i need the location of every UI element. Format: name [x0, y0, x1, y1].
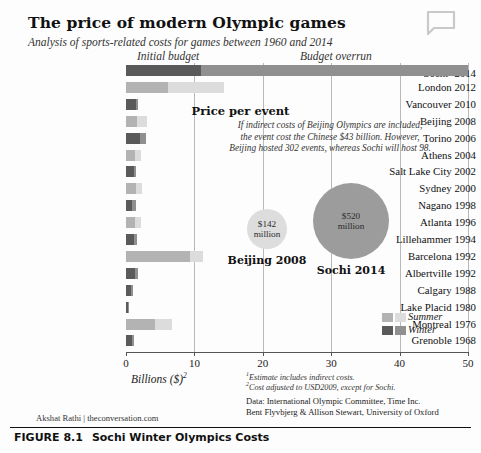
credit-line: Akshat Rathi | theconversation.com — [36, 413, 158, 423]
bar-budget-overrun — [190, 251, 203, 262]
row-label-calgary: Calgary 1988 — [355, 284, 481, 297]
row-label-salt-lake-city: Salt Lake City 2002 — [355, 165, 481, 178]
row-label-grenoble: Grenoble 1968 — [355, 334, 481, 347]
legend-label: Summer — [408, 311, 442, 322]
x-tick-10 — [194, 352, 195, 356]
bar-initial-budget — [126, 319, 155, 330]
bar-initial-budget — [126, 268, 135, 279]
figure-caption-text: Sochi Winter Olympics Costs — [92, 431, 269, 444]
price-circle-value: $520million — [338, 211, 365, 232]
bar-budget-overrun — [140, 133, 145, 144]
bar-budget-overrun — [132, 200, 135, 211]
row-label-london: London 2012 — [355, 81, 481, 94]
row-label-city: Calgary — [418, 284, 452, 296]
bar-initial-budget — [126, 133, 140, 144]
callout-body: If indirect costs of Beijing Olympics ar… — [185, 120, 475, 155]
caption-budget-overrun: Budget overrun — [300, 50, 372, 62]
chart-row: Nagano 1998 — [0, 199, 481, 215]
legend-swatch-initial — [382, 313, 393, 322]
x-tick-20 — [263, 352, 264, 356]
source-line: Bent Flyvbjerg & Allison Stewart, Univer… — [246, 407, 439, 417]
chart-row: Grenoble 1968 — [0, 334, 481, 350]
price-circle-beijing-2008: $142million — [247, 209, 287, 249]
legend-item-summer: Summer — [382, 313, 477, 322]
bar-budget-overrun — [135, 268, 138, 279]
row-label-year: 1968 — [452, 334, 476, 346]
legend-swatch-overrun — [395, 313, 406, 322]
row-label-year: 1992 — [452, 267, 476, 279]
bar-initial-budget — [126, 183, 136, 194]
bar-budget-overrun — [136, 183, 142, 194]
x-tick-30 — [331, 352, 332, 356]
x-tick-label-40: 40 — [394, 357, 405, 369]
page-title: The price of modern Olympic games — [28, 13, 346, 32]
bar-initial-budget — [126, 150, 135, 161]
bar-initial-budget — [126, 217, 135, 228]
figure-container: The price of modern Olympic games Analys… — [0, 0, 481, 453]
legend-label: Winter — [408, 324, 436, 335]
chart-row: Sydney 2000 — [0, 182, 481, 198]
row-label-year: 1996 — [452, 216, 476, 228]
row-label-year: 1998 — [452, 199, 476, 211]
row-label-year: 1992 — [452, 250, 476, 262]
legend-swatch-initial — [382, 326, 393, 335]
row-label-city: Lillehammer — [396, 233, 452, 245]
chart-row: Salt Lake City 2002 — [0, 165, 481, 181]
row-label-barcelona: Barcelona 1992 — [355, 250, 481, 263]
legend-swatch-overrun — [395, 326, 406, 335]
footnote-2: 2Cost adjusted to USD2009, except for So… — [246, 381, 395, 392]
bar-budget-overrun — [134, 166, 136, 177]
row-label-city: Sydney — [419, 182, 451, 194]
figure-divider — [10, 427, 471, 428]
bar-initial-budget — [126, 166, 134, 177]
caption-initial-budget: Initial budget — [137, 50, 199, 62]
bar-budget-overrun — [135, 150, 141, 161]
row-label-year: 2000 — [452, 182, 476, 194]
bar-budget-overrun — [155, 319, 171, 330]
row-label-city: Nagano — [418, 199, 452, 211]
page-subtitle: Analysis of sports-related costs for gam… — [28, 36, 333, 48]
x-tick-40 — [400, 352, 401, 356]
bar-initial-budget — [126, 234, 134, 245]
callout-body-line: Beijing hosted 302 events, whereas Sochi… — [185, 143, 475, 155]
price-circle-unit: million — [338, 221, 365, 232]
figure-number: FIGURE 8.1 — [14, 431, 83, 444]
x-tick-label-10: 10 — [189, 357, 200, 369]
x-tick-label-0: 0 — [123, 357, 129, 369]
bar-budget-overrun — [132, 335, 133, 346]
chart-row: Calgary 1988 — [0, 284, 481, 300]
price-circle-sochi-2014: $520million — [313, 183, 389, 259]
price-circle-amount: $520 — [338, 211, 365, 222]
row-label-city: Atlanta — [420, 216, 452, 228]
row-label-city: Barcelona — [408, 250, 452, 262]
figure-caption: FIGURE 8.1Sochi Winter Olympics Costs — [14, 431, 269, 444]
footnote-text: Cost adjusted to USD2009, except for Soc… — [249, 383, 395, 392]
bar-budget-overrun — [134, 234, 137, 245]
price-circle-unit: million — [254, 229, 281, 240]
row-label-city: Salt Lake City — [389, 165, 451, 177]
x-tick-0 — [126, 352, 127, 356]
row-label-city: London — [418, 81, 452, 93]
bar-initial-budget — [126, 65, 201, 76]
source-line: Data: International Olympic Committee, T… — [246, 396, 420, 406]
x-tick-label-50: 50 — [463, 357, 474, 369]
chart-row: Lillehammer 1994 — [0, 233, 481, 249]
callout-body-line: If indirect costs of Beijing Olympics ar… — [185, 120, 475, 132]
speech-bubble-icon — [424, 9, 458, 39]
row-label-year: 1988 — [452, 284, 476, 296]
price-circle-amount: $142 — [254, 219, 281, 230]
legend-item-winter: Winter — [382, 326, 477, 335]
x-tick-label-30: 30 — [326, 357, 337, 369]
chart-row: London 2012 — [0, 81, 481, 97]
x-axis-title-text: Billions ($) — [131, 373, 183, 385]
bar-budget-overrun — [128, 302, 129, 313]
chart-row: Sochi1 2014 — [0, 64, 481, 80]
row-label-year: 1980 — [452, 301, 476, 313]
bar-budget-overrun — [168, 82, 223, 93]
row-label-year: 2012 — [452, 81, 476, 93]
price-circle-label: Sochi 2014 — [291, 264, 411, 277]
row-label-year: 1994 — [452, 233, 476, 245]
price-circle-value: $142million — [254, 219, 281, 240]
callout-title: Price per event — [0, 104, 481, 118]
x-axis-line — [126, 352, 469, 353]
